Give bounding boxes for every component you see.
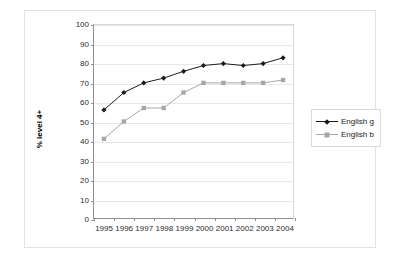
x-axis-tick-label: 2002	[236, 225, 254, 233]
y-axis-tick-label: 30	[80, 158, 89, 166]
data-point-diamond	[241, 63, 246, 68]
data-point-diamond	[161, 76, 166, 81]
chart-frame: % level 4+ 0102030405060708090100 199519…	[24, 10, 376, 248]
x-axis-tick-label: 2004	[276, 225, 294, 233]
series-english-b	[102, 78, 285, 141]
x-axis-tick-label: 1995	[95, 225, 113, 233]
y-axis-tick-label: 90	[80, 41, 89, 49]
data-point-square	[241, 81, 245, 85]
x-axis-tick-mark	[295, 218, 296, 221]
data-point-diamond	[141, 80, 146, 85]
y-axis-tick-label: 60	[80, 99, 89, 107]
data-point-diamond	[221, 61, 226, 66]
y-axis-tick-label: 10	[80, 197, 89, 205]
y-axis-tick-label: 40	[80, 138, 89, 146]
data-point-square	[161, 106, 165, 110]
x-axis-tick-mark	[195, 218, 196, 221]
x-axis-tick-mark	[114, 218, 115, 221]
data-point-diamond	[261, 61, 266, 66]
x-axis-tick-label: 2000	[196, 225, 214, 233]
x-axis-tick-mark	[134, 218, 135, 221]
x-axis-tick-mark	[174, 218, 175, 221]
x-axis-tick-label: 2001	[216, 225, 234, 233]
legend-label: English b	[341, 131, 374, 139]
data-point-diamond	[201, 63, 206, 68]
x-axis-tick-mark	[235, 218, 236, 221]
data-point-square	[102, 137, 106, 141]
series-layer	[94, 25, 293, 218]
plot-area: 0102030405060708090100 19951996199719981…	[93, 24, 294, 219]
data-point-square	[281, 78, 285, 82]
data-point-square	[201, 81, 205, 85]
data-point-square	[221, 81, 225, 85]
x-axis-tick-label: 1998	[155, 225, 173, 233]
y-axis-tick-label: 70	[80, 80, 89, 88]
x-axis-tick-mark	[215, 218, 216, 221]
y-axis-tick-label: 20	[80, 177, 89, 185]
legend-square-icon	[316, 129, 338, 140]
y-axis-title: % level 4+	[35, 110, 44, 148]
y-axis-tick-label: 100	[76, 21, 89, 29]
data-point-square	[181, 90, 185, 94]
x-axis-tick-mark	[275, 218, 276, 221]
y-axis-tick-label: 80	[80, 60, 89, 68]
legend-diamond-icon	[316, 116, 338, 127]
legend-item-english-g[interactable]: English g	[316, 115, 374, 128]
data-point-diamond	[280, 55, 285, 60]
x-axis-tick-mark	[255, 218, 256, 221]
data-point-diamond	[181, 69, 186, 74]
series-line	[104, 58, 283, 110]
data-point-square	[142, 106, 146, 110]
x-axis-tick-label: 1997	[135, 225, 153, 233]
x-axis-tick-label: 1996	[115, 225, 133, 233]
y-axis-tick-label: 50	[80, 119, 89, 127]
x-axis-tick-mark	[154, 218, 155, 221]
data-point-square	[122, 119, 126, 123]
x-axis-tick-label: 2003	[256, 225, 274, 233]
x-axis-tick-label: 1999	[176, 225, 194, 233]
legend-label: English g	[341, 118, 374, 126]
chart-legend: English gEnglish b	[311, 109, 381, 147]
data-point-square	[261, 81, 265, 85]
series-english-g	[101, 55, 285, 112]
x-axis-tick-mark	[94, 218, 95, 221]
y-axis-tick-label: 0	[85, 216, 89, 224]
legend-item-english-b[interactable]: English b	[316, 128, 374, 141]
